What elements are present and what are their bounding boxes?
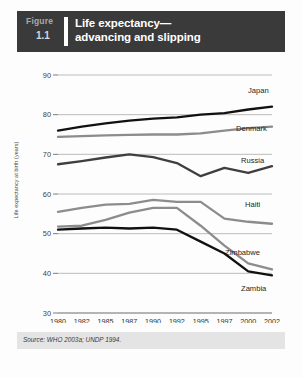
chart-plot-area: Life expectancy at birth (years) 3040506… <box>0 55 302 323</box>
y-tick-label: 60 <box>43 190 51 199</box>
source-note: Source: WHO 2003a; UNDP 1994. <box>23 336 121 343</box>
x-tick-label: 1992 <box>169 317 185 323</box>
figure-header: Figure 1.1 Life expectancy— advancing an… <box>17 11 285 52</box>
x-tick-labels-group: 1980198219851987199019921995199720002002 <box>50 317 280 323</box>
y-tick-label: 70 <box>43 150 51 159</box>
y-tick-label: 90 <box>43 71 51 80</box>
y-tick-label: 80 <box>43 110 51 119</box>
x-tick-label: 1980 <box>50 317 66 323</box>
y-axis-title: Life expectancy at birth (years) <box>13 120 19 240</box>
series-line-russia <box>58 154 272 176</box>
series-label-haiti: Haiti <box>245 200 261 209</box>
source-band: Source: WHO 2003a; UNDP 1994. <box>17 332 285 349</box>
figure-word-label: Figure <box>26 16 53 26</box>
series-label-russia: Russia <box>241 156 265 165</box>
y-tick-label: 40 <box>43 269 51 278</box>
series-label-denmark: Denmark <box>236 124 267 133</box>
title-line-2: advancing and slipping <box>75 31 201 43</box>
series-label-zambia: Zambia <box>241 284 267 293</box>
title-line-1: Life expectancy— <box>75 17 171 29</box>
x-tick-label: 1995 <box>193 317 209 323</box>
figure-number-label: 1.1 <box>36 30 50 41</box>
x-tick-label: 1987 <box>121 317 137 323</box>
x-tick-label: 1985 <box>98 317 114 323</box>
header-divider-rule <box>64 17 68 46</box>
page-title: Life expectancy— advancing and slipping <box>75 16 275 44</box>
series-line-haiti <box>58 200 272 224</box>
series-line-zimbabwe <box>58 208 272 269</box>
series-label-japan: Japan <box>248 86 269 95</box>
figure-container: Figure 1.1 Life expectancy— advancing an… <box>0 0 302 378</box>
line-chart: 30405060708090 1980198219851987199019921… <box>0 55 302 323</box>
x-tick-label: 1982 <box>74 317 90 323</box>
x-tick-label: 2002 <box>264 317 280 323</box>
x-tick-label: 1997 <box>216 317 232 323</box>
y-tick-label: 50 <box>43 229 51 238</box>
x-tick-label: 2000 <box>240 317 256 323</box>
y-tick-labels-group: 30405060708090 <box>43 71 51 318</box>
x-tick-label: 1990 <box>145 317 161 323</box>
series-label-zimbabwe: Zimbabwe <box>225 248 260 257</box>
